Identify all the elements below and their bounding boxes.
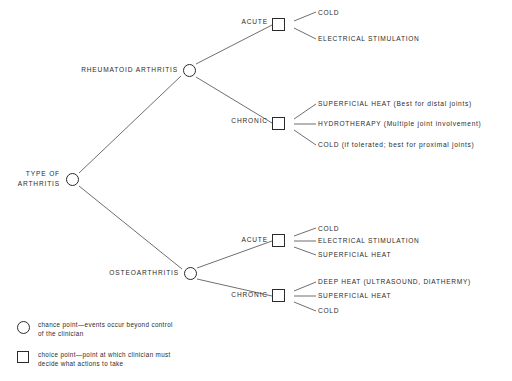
choice-node-oa-acute[interactable] bbox=[272, 234, 285, 247]
leaf-oa-acute-2: ELECTRICAL STIMULATION bbox=[318, 236, 420, 246]
leaf-ra-acute-2: ELECTRICAL STIMULATION bbox=[318, 34, 420, 44]
leaf-ra-acute-1: COLD bbox=[318, 8, 339, 18]
choice-label-oa-acute: ACUTE bbox=[212, 235, 268, 245]
choice-label-ra-acute: ACUTE bbox=[212, 17, 268, 27]
leaf-ra-chronic-2: HYDROTHERAPY (Multiple joint involvement… bbox=[318, 119, 481, 129]
choice-point-icon bbox=[17, 351, 29, 363]
leaf-oa-chronic-1: DEEP HEAT (ULTRASOUND, DIATHERMY) bbox=[318, 277, 471, 287]
leaf-oa-acute-1: COLD bbox=[318, 224, 339, 234]
branch-label-osteoarthritis: OSTEOARTHRITIS bbox=[80, 268, 179, 278]
leaf-ra-chronic-3: COLD (if tolerated; best for proximal jo… bbox=[318, 140, 474, 150]
chance-point-icon bbox=[17, 321, 30, 334]
chance-node-rheumatoid-arthritis[interactable] bbox=[183, 64, 196, 77]
root-label: TYPE OF ARTHRITIS bbox=[2, 169, 60, 188]
choice-label-ra-chronic: CHRONIC bbox=[202, 116, 268, 126]
choice-node-oa-chronic[interactable] bbox=[272, 289, 285, 302]
chance-node-root[interactable] bbox=[66, 173, 79, 186]
legend-label-chance-point: chance point—events occur beyond control… bbox=[38, 320, 253, 338]
leaf-oa-chronic-2: SUPERFICIAL HEAT bbox=[318, 291, 391, 301]
choice-node-ra-chronic[interactable] bbox=[272, 117, 285, 130]
decision-tree-diagram: TYPE OF ARTHRITIS RHEUMATOID ARTHRITIS A… bbox=[0, 0, 512, 381]
choice-label-oa-chronic: CHRONIC bbox=[202, 290, 268, 300]
leaf-oa-chronic-3: COLD bbox=[318, 306, 339, 316]
choice-node-ra-acute[interactable] bbox=[272, 18, 285, 31]
legend-label-choice-point: choice point—point at which clinician mu… bbox=[38, 350, 253, 368]
leaf-ra-chronic-1: SUPERFICIAL HEAT (Best for distal joints… bbox=[318, 99, 472, 109]
leaf-oa-acute-3: SUPERFICIAL HEAT bbox=[318, 250, 391, 260]
branch-label-rheumatoid-arthritis: RHEUMATOID ARTHRITIS bbox=[36, 65, 178, 75]
chance-node-osteoarthritis[interactable] bbox=[184, 267, 197, 280]
